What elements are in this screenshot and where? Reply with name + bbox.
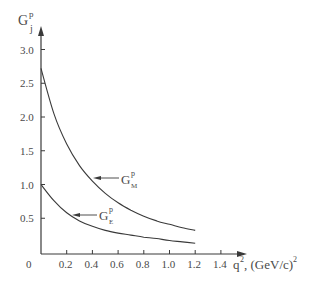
svg-text:p: p: [131, 169, 135, 178]
svg-text:2: 2: [293, 255, 297, 264]
y-tick-label: 0.5: [20, 212, 34, 224]
arrow-left-icon: [72, 213, 80, 217]
x-tick-label: 0.4: [84, 258, 98, 270]
series-gm-label: G p M: [93, 169, 138, 190]
form-factor-chart: 0.51.01.52.02.53.0 00.20.40.60.81.01.21.…: [0, 0, 311, 294]
y-tick-label: 1.5: [20, 145, 34, 157]
svg-text:G: G: [121, 172, 130, 187]
svg-text:j: j: [29, 23, 33, 34]
y-axis-arrow-icon: [38, 26, 44, 36]
y-tick-label: 3.0: [20, 44, 34, 56]
x-tick-label: 0.2: [59, 258, 73, 270]
y-tick-label: 2.0: [20, 111, 34, 123]
y-axis-label: G p j: [18, 9, 34, 34]
series-ge-label: G p E: [72, 205, 113, 226]
x-tick-label: 0: [26, 258, 32, 270]
svg-text:M: M: [131, 182, 138, 190]
series-gm-curve: [41, 68, 195, 230]
x-tick-label: 0.8: [136, 258, 150, 270]
series-ge-curve: [41, 185, 195, 244]
svg-text:G: G: [99, 208, 108, 223]
svg-text:p: p: [29, 9, 34, 19]
x-tick-label: 1.4: [213, 258, 227, 270]
svg-text:G: G: [18, 13, 28, 28]
y-tick-label: 1.0: [20, 179, 34, 191]
svg-text:p: p: [109, 205, 113, 214]
svg-text:q: q: [233, 257, 240, 272]
x-tick-label: 1.2: [187, 258, 201, 270]
y-tick-label: 2.5: [20, 77, 34, 89]
x-tick-label: 1.0: [162, 258, 176, 270]
x-axis-label: q 2 , (GeV/c) 2: [233, 255, 297, 272]
svg-text:E: E: [109, 218, 113, 226]
svg-text:, (GeV/c): , (GeV/c): [244, 257, 293, 272]
x-tick-label: 0.6: [110, 258, 124, 270]
x-ticks: 00.20.40.60.81.01.21.4: [26, 250, 227, 270]
arrow-left-icon: [93, 176, 101, 180]
